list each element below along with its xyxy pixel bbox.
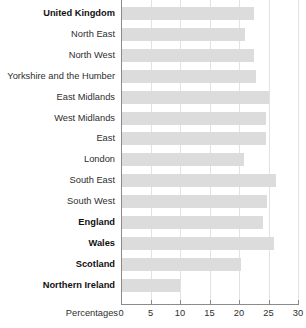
- x-tick: [180, 300, 181, 305]
- bar-row: [121, 237, 298, 250]
- x-tick-label: 25: [263, 308, 273, 319]
- category-label: West Midlands: [54, 112, 115, 125]
- bar-chart: United KingdomNorth EastNorth WestYorksh…: [0, 0, 306, 328]
- x-tick: [239, 300, 240, 305]
- bar-row: [121, 49, 298, 62]
- bar: [121, 70, 256, 83]
- x-axis-title: Percentages: [66, 308, 118, 319]
- bar: [121, 132, 266, 145]
- bar: [121, 237, 274, 250]
- x-tick: [210, 300, 211, 305]
- bar-row: [121, 216, 298, 229]
- bar-row: [121, 28, 298, 41]
- bar-row: [121, 279, 298, 292]
- x-tick: [298, 300, 299, 305]
- category-label: East Midlands: [57, 91, 115, 104]
- gridline: [180, 0, 181, 300]
- bar-row: [121, 195, 298, 208]
- bar-row: [121, 70, 298, 83]
- category-label: London: [84, 153, 115, 166]
- bar-row: [121, 153, 298, 166]
- gridline: [151, 0, 152, 300]
- category-label: Northern Ireland: [43, 279, 115, 292]
- bar: [121, 279, 180, 292]
- category-label: East: [96, 132, 115, 145]
- gridline: [239, 0, 240, 300]
- category-label: North East: [71, 28, 115, 41]
- bar: [121, 258, 241, 271]
- bar-row: [121, 112, 298, 125]
- x-tick-label: 10: [175, 308, 185, 319]
- bar: [121, 216, 263, 229]
- x-tick-label: 20: [234, 308, 244, 319]
- x-tick-label: 15: [204, 308, 214, 319]
- category-label: South East: [70, 174, 115, 187]
- bar: [121, 7, 254, 20]
- bar: [121, 174, 276, 187]
- x-tick: [151, 300, 152, 305]
- category-label: South West: [67, 195, 115, 208]
- plot-area: [121, 0, 298, 300]
- category-label-column: United KingdomNorth EastNorth WestYorksh…: [0, 0, 119, 300]
- bar-row: [121, 258, 298, 271]
- gridline: [210, 0, 211, 300]
- x-tick: [121, 300, 122, 305]
- bar: [121, 49, 254, 62]
- gridline: [298, 0, 299, 300]
- x-tick-label: 30: [293, 308, 303, 319]
- y-axis-line: [121, 0, 122, 305]
- category-label: North West: [69, 49, 115, 62]
- bar-row: [121, 174, 298, 187]
- category-label: Wales: [88, 237, 115, 250]
- x-tick-label: 5: [148, 308, 153, 319]
- bar: [121, 112, 266, 125]
- bar-row: [121, 7, 298, 20]
- category-label: Scotland: [76, 258, 115, 271]
- bar: [121, 153, 244, 166]
- bar: [121, 91, 269, 104]
- category-label: England: [78, 216, 115, 229]
- bar-row: [121, 91, 298, 104]
- x-tick-label: 0: [118, 308, 123, 319]
- bar: [121, 195, 267, 208]
- bar: [121, 28, 245, 41]
- category-label: United Kingdom: [43, 7, 115, 20]
- bar-row: [121, 132, 298, 145]
- gridline: [269, 0, 270, 300]
- category-label: Yorkshire and the Humber: [7, 70, 115, 83]
- x-tick: [269, 300, 270, 305]
